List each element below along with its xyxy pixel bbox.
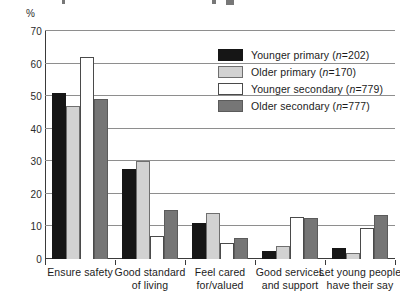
bar — [262, 251, 276, 259]
legend-item-label: Younger primary (n=202) — [251, 49, 369, 61]
bar — [164, 210, 178, 259]
clipped-title-artifact — [226, 0, 234, 5]
bar-group — [115, 31, 185, 259]
legend-item: Younger secondary (n=779) — [218, 80, 383, 97]
y-tick-label-10: 10 — [16, 221, 42, 232]
x-axis-tick — [395, 260, 396, 265]
x-axis-category-label: Let young peoplehave their say — [318, 266, 400, 291]
x-axis-category-label-line: have their say — [318, 279, 400, 292]
bar — [192, 223, 206, 259]
bar — [206, 213, 220, 259]
legend-item-label: Older secondary (n=777) — [251, 100, 370, 112]
x-axis-tick — [45, 260, 46, 265]
bar — [220, 243, 234, 259]
bar — [234, 238, 248, 259]
bar — [374, 215, 388, 259]
y-axis-unit-label: % — [26, 8, 35, 19]
bar — [304, 218, 318, 259]
legend: Younger primary (n=202)Older primary (n=… — [218, 46, 383, 114]
bar — [94, 99, 108, 259]
y-tick-label-60: 60 — [16, 58, 42, 69]
x-axis-tick — [185, 260, 186, 265]
bar — [332, 248, 346, 259]
legend-swatch-younger-primary — [218, 49, 243, 61]
bar — [346, 253, 360, 260]
legend-item: Older primary (n=170) — [218, 63, 383, 80]
x-axis-tick — [255, 260, 256, 265]
x-axis-tick — [115, 260, 116, 265]
clipped-title-artifact — [212, 0, 216, 4]
bar-chart: % 010203040506070 Ensure safetyGood stan… — [0, 0, 400, 297]
legend-swatch-older-primary — [218, 66, 243, 78]
bar-group — [45, 31, 115, 259]
legend-swatch-younger-secondary — [218, 83, 243, 95]
bar — [136, 161, 150, 259]
bar — [290, 217, 304, 259]
bar — [276, 246, 290, 259]
legend-swatch-older-secondary — [218, 100, 243, 112]
x-axis-category-label-line: Let young people — [318, 266, 400, 279]
x-axis-tick — [325, 260, 326, 265]
bar — [80, 57, 94, 259]
bar — [66, 106, 80, 259]
bar — [150, 236, 164, 259]
legend-item: Older secondary (n=777) — [218, 97, 383, 114]
y-tick-label-50: 50 — [16, 91, 42, 102]
legend-item-label: Younger secondary (n=779) — [251, 83, 383, 95]
y-tick-label-40: 40 — [16, 123, 42, 134]
y-tick-label-20: 20 — [16, 188, 42, 199]
bar — [52, 93, 66, 259]
clipped-title-artifact — [62, 0, 65, 4]
legend-item: Younger primary (n=202) — [218, 46, 383, 63]
y-tick-label-70: 70 — [16, 26, 42, 37]
y-tick-label-30: 30 — [16, 156, 42, 167]
bar — [122, 169, 136, 259]
y-tick-label-0: 0 — [16, 254, 42, 265]
legend-item-label: Older primary (n=170) — [251, 66, 356, 78]
bar — [360, 228, 374, 259]
